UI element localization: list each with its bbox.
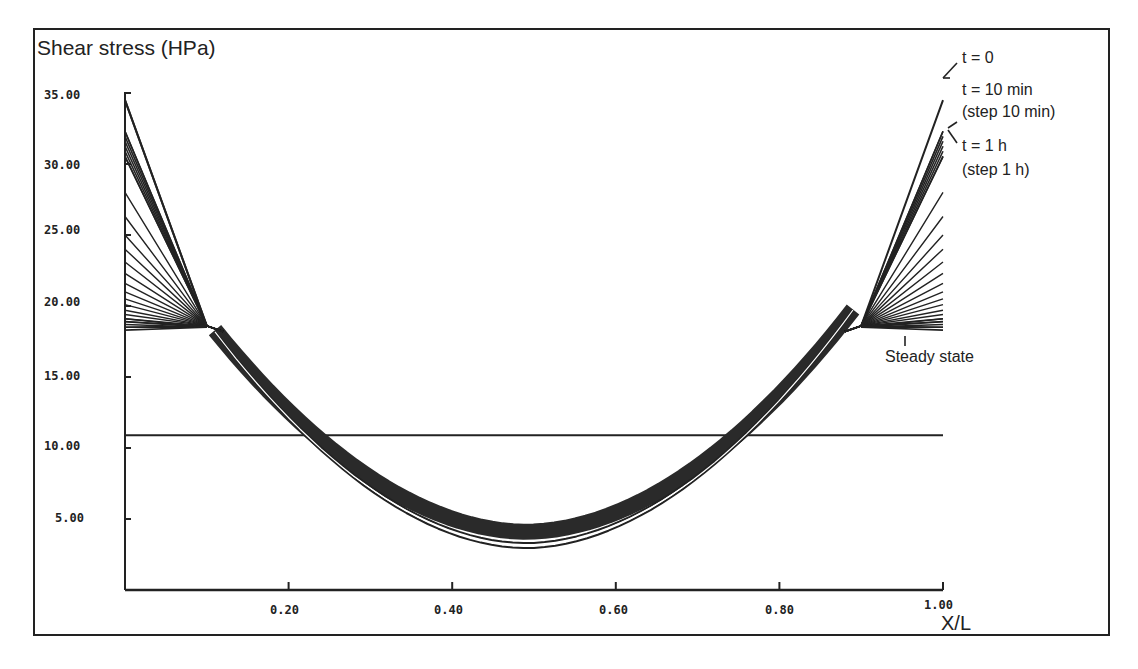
annotation-step-10min: (step 10 min) [962,102,1055,122]
x-tick-label: 1.00 [924,598,953,612]
x-tick-label: 0.60 [599,603,628,617]
y-tick-label: 20.00 [44,295,80,309]
x-tick-label: 0.40 [434,603,463,617]
shear-stress-chart: Shear stress (HPa) 35.00 30.00 25.00 20.… [0,0,1138,669]
y-tick-label: 35.00 [44,88,80,102]
y-tick-label: 30.00 [44,158,80,172]
x-axis-title: X/L [941,612,971,635]
y-tick-label: 15.00 [44,369,80,383]
annotation-t1h: t = 1 h [962,136,1007,156]
annotation-steady-state: Steady state [885,347,974,367]
x-tick-label: 0.20 [270,603,299,617]
annotation-t0: t = 0 [962,48,994,68]
y-axis-title: Shear stress (HPa) [37,36,216,60]
annotation-step-1h: (step 1 h) [962,160,1030,180]
y-tick-label: 25.00 [44,223,80,237]
y-tick-label: 10.00 [44,439,80,453]
y-tick-label: 5.00 [55,511,84,525]
plot-area [0,0,1138,669]
annotation-t10min: t = 10 min [962,80,1033,100]
x-tick-label: 0.80 [765,603,794,617]
